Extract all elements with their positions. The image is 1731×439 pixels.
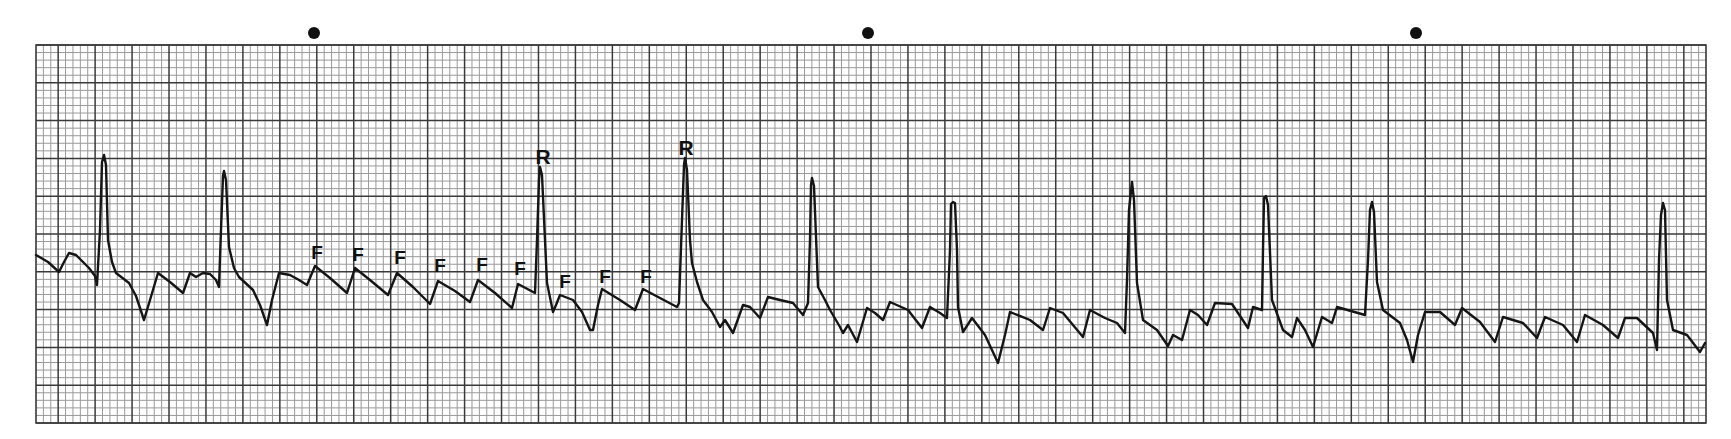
- flutter-wave-label: F: [476, 255, 488, 274]
- time-marker-dot: [308, 27, 320, 39]
- flutter-wave-label: F: [311, 243, 323, 262]
- flutter-wave-label: F: [559, 272, 571, 291]
- ecg-strip: FFFFFFRFFFR: [0, 0, 1731, 439]
- flutter-wave-label: F: [640, 267, 652, 286]
- time-marker-dot: [1410, 27, 1422, 39]
- time-marker-dot: [862, 27, 874, 39]
- r-wave-label: R: [678, 137, 693, 158]
- r-wave-label: R: [535, 146, 550, 167]
- flutter-wave-label: F: [394, 248, 406, 267]
- ecg-paper-grid: [0, 0, 1731, 439]
- flutter-wave-label: F: [434, 256, 446, 275]
- grid-major-lines: [36, 45, 1706, 423]
- flutter-wave-label: F: [352, 245, 364, 264]
- flutter-wave-label: F: [514, 259, 526, 278]
- flutter-wave-label: F: [599, 267, 611, 286]
